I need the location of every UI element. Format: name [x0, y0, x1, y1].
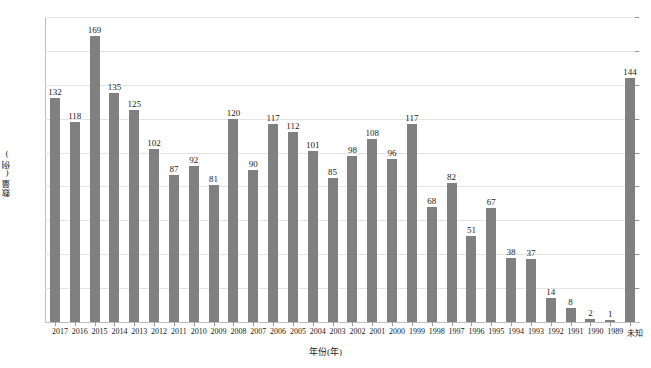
x-tick-mark — [333, 322, 334, 326]
bar — [109, 93, 119, 322]
x-axis-label: 年份(年) — [0, 345, 651, 358]
bar — [546, 298, 556, 322]
bar-chart: 数量(例) 020406080100120140160180 132118169… — [0, 0, 651, 368]
bar — [506, 258, 516, 322]
x-tick-mark — [214, 322, 215, 326]
bar — [248, 170, 258, 323]
bar — [427, 207, 437, 322]
bar-value-label: 125 — [120, 99, 148, 109]
bar-value-label: 1 — [596, 309, 624, 319]
bar-value-label: 169 — [81, 25, 109, 35]
bar — [129, 110, 139, 322]
bar — [447, 183, 457, 322]
x-tick-mark — [95, 322, 96, 326]
x-tick-mark — [372, 322, 373, 326]
bar — [288, 132, 298, 322]
bar — [169, 175, 179, 322]
x-tick-mark — [194, 322, 195, 326]
bar-series: 1321181691351251028792811209011711210185… — [45, 17, 640, 322]
bar — [486, 208, 496, 322]
bar — [268, 124, 278, 322]
x-tick-mark — [293, 322, 294, 326]
x-tick-mark — [412, 322, 413, 326]
bar — [526, 259, 536, 322]
x-tick-mark — [114, 322, 115, 326]
x-tick-mark — [452, 322, 453, 326]
bar-value-label: 118 — [61, 111, 89, 121]
bar-value-label: 8 — [557, 297, 585, 307]
bar — [347, 156, 357, 322]
x-tick-mark — [491, 322, 492, 326]
bar-value-label: 90 — [239, 159, 267, 169]
x-tick-mark — [154, 322, 155, 326]
x-tick-mark — [590, 322, 591, 326]
x-tick-mark — [571, 322, 572, 326]
bar — [149, 149, 159, 322]
bar — [367, 139, 377, 322]
bar-value-label: 144 — [616, 67, 644, 77]
bar-value-label: 51 — [457, 225, 485, 235]
bar — [228, 119, 238, 322]
x-tick-mark — [55, 322, 56, 326]
y-axis-label: 数量(例) — [2, 150, 16, 197]
bar — [90, 36, 100, 322]
bar-value-label: 37 — [517, 248, 545, 258]
bar-value-label: 98 — [338, 145, 366, 155]
x-tick-mark — [432, 322, 433, 326]
x-tick-mark — [630, 322, 631, 326]
x-tick-mark — [75, 322, 76, 326]
bar — [625, 78, 635, 322]
bar-value-label: 14 — [537, 287, 565, 297]
x-tick-mark — [233, 322, 234, 326]
x-tick-mark — [134, 322, 135, 326]
bar — [209, 185, 219, 322]
x-tick-mark — [174, 322, 175, 326]
bar — [407, 124, 417, 322]
bar — [308, 151, 318, 322]
x-tick-mark — [531, 322, 532, 326]
bar — [387, 159, 397, 322]
x-tick-label: 未知 — [620, 327, 650, 338]
bar-value-label: 108 — [358, 128, 386, 138]
bar — [70, 122, 80, 322]
bar-value-label: 132 — [41, 87, 69, 97]
bar — [466, 236, 476, 322]
bar — [328, 178, 338, 322]
bar-value-label: 67 — [477, 197, 505, 207]
x-tick-mark — [551, 322, 552, 326]
bar-value-label: 85 — [319, 167, 347, 177]
bar-value-label: 82 — [438, 172, 466, 182]
x-tick-mark — [352, 322, 353, 326]
plot-area: 020406080100120140160180 132118169135125… — [45, 17, 640, 322]
bar-value-label: 81 — [200, 174, 228, 184]
bar-value-label: 96 — [378, 148, 406, 158]
x-tick-mark — [610, 322, 611, 326]
x-tick-mark — [471, 322, 472, 326]
bar-value-label: 92 — [180, 155, 208, 165]
bar-value-label: 112 — [279, 121, 307, 131]
bar — [189, 166, 199, 322]
x-tick-mark — [392, 322, 393, 326]
bar — [50, 98, 60, 322]
bar-value-label: 117 — [398, 113, 426, 123]
x-tick-mark — [273, 322, 274, 326]
bar-value-label: 101 — [299, 140, 327, 150]
bar — [566, 308, 576, 322]
x-tick-mark — [511, 322, 512, 326]
x-tick-mark — [313, 322, 314, 326]
bar-value-label: 102 — [140, 138, 168, 148]
bar-value-label: 68 — [418, 196, 446, 206]
bar-value-label: 120 — [219, 108, 247, 118]
bar-value-label: 135 — [100, 82, 128, 92]
x-tick-mark — [253, 322, 254, 326]
